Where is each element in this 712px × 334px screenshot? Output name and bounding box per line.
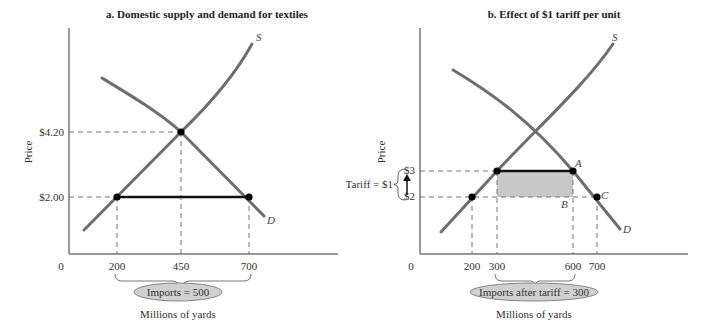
demand-label: D bbox=[622, 223, 631, 235]
y-tick-420: $4.20 bbox=[39, 126, 64, 138]
imports-label: Imports = 500 bbox=[147, 286, 210, 298]
demand-label: D bbox=[266, 214, 275, 226]
x-tick-700: 700 bbox=[241, 260, 258, 272]
supply-point-world bbox=[468, 193, 475, 200]
figure: a. Domestic supply and demand for textil… bbox=[0, 0, 712, 334]
x-tick-0: 0 bbox=[58, 260, 64, 272]
x-axis-label: Millions of yards bbox=[496, 308, 572, 320]
panel-a: a. Domestic supply and demand for textil… bbox=[22, 8, 338, 320]
x-tick-200: 200 bbox=[464, 260, 481, 272]
supply-curve bbox=[441, 44, 613, 232]
panel-b-title: b. Effect of $1 tariff per unit bbox=[488, 8, 621, 20]
equilibrium-point bbox=[177, 128, 184, 135]
point-b-label: B bbox=[561, 198, 568, 210]
point-c bbox=[593, 193, 600, 200]
demand-curve bbox=[453, 70, 620, 229]
x-tick-0: 0 bbox=[408, 260, 414, 272]
x-tick-200: 200 bbox=[109, 260, 126, 272]
imports-label: Imports after tariff = 300 bbox=[479, 286, 589, 298]
panel-b: b. Effect of $1 tariff per unit Price S … bbox=[346, 8, 688, 320]
supply-curve bbox=[84, 44, 252, 230]
supply-point-tariff bbox=[493, 167, 500, 174]
y-tick-200: $2.00 bbox=[39, 191, 64, 203]
supply-label: S bbox=[256, 31, 262, 43]
point-a-label: A bbox=[574, 157, 582, 169]
x-tick-300: 300 bbox=[489, 260, 506, 272]
y-tick-2: $2 bbox=[404, 190, 415, 202]
x-tick-700: 700 bbox=[589, 260, 606, 272]
y-axis-label: Price bbox=[22, 141, 34, 164]
panel-a-title: a. Domestic supply and demand for textil… bbox=[106, 8, 308, 20]
tariff-revenue-area bbox=[497, 171, 573, 197]
demand-curve bbox=[102, 78, 264, 216]
supply-point bbox=[113, 193, 120, 200]
x-tick-450: 450 bbox=[173, 260, 190, 272]
x-tick-600: 600 bbox=[565, 260, 582, 272]
tariff-label: Tariff = $1 bbox=[346, 178, 393, 190]
supply-label: S bbox=[612, 31, 618, 43]
y-axis-label: Price bbox=[375, 141, 387, 164]
point-c-label: C bbox=[601, 189, 609, 201]
y-tick-3: $3 bbox=[404, 164, 416, 176]
x-axis-label: Millions of yards bbox=[140, 308, 216, 320]
demand-point bbox=[245, 193, 252, 200]
